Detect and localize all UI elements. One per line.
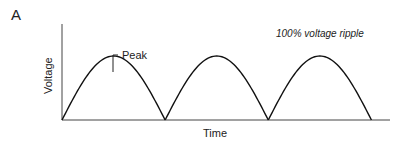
x-axis-label: Time xyxy=(203,127,227,139)
chart: A Voltage Time 100% voltage ripple Peak xyxy=(0,0,410,145)
waveform-hump-3 xyxy=(268,56,371,120)
waveform-hump-1 xyxy=(62,56,165,120)
waveform-hump-2 xyxy=(165,56,268,120)
panel-label: A xyxy=(11,6,21,23)
peak-label: Peak xyxy=(122,49,148,61)
y-axis-label: Voltage xyxy=(42,57,54,94)
peak-leader-line xyxy=(113,55,118,72)
ripple-annotation: 100% voltage ripple xyxy=(276,28,364,39)
